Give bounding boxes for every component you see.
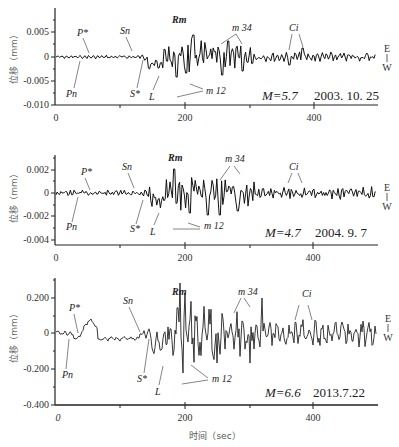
phase-label-rm: Rm (171, 286, 187, 297)
date-label: 2013.7.22 (313, 385, 365, 400)
phase-label-l: L (148, 91, 155, 102)
y-tick-label: 0 (44, 187, 49, 198)
component-e: E (385, 313, 391, 324)
seismogram-trace (56, 283, 376, 373)
phase-label-l: L (154, 386, 161, 397)
phase-label-sn: Sn (122, 161, 132, 172)
seismogram-figure: 0.005 0 -0.005 -0.010 位移（mm） 0 200 400 P… (0, 0, 399, 447)
phase-label-rm: Rm (171, 14, 187, 25)
phase-label-m12: m 12 (204, 220, 224, 231)
phase-label-l: L (149, 226, 156, 237)
panel-2004: 0.002 0 -0.002 -0.004 位移（mm） 0 200 400 P… (8, 152, 392, 263)
x-tick-label: 200 (178, 112, 193, 123)
phase-label-pn: Pn (65, 221, 77, 232)
magnitude-label: M=5.7 (261, 88, 298, 103)
x-tick-label: 0 (54, 252, 59, 263)
x-tick-label: 200 (178, 252, 193, 263)
phase-label-ci: Ci (302, 288, 312, 299)
seismogram-trace (56, 169, 375, 215)
seismogram-trace (56, 35, 375, 77)
magnitude-label: M=6.6 (264, 385, 301, 400)
y-tick-label: -0.200 (23, 363, 49, 374)
y-tick-label: 0.005 (27, 26, 50, 37)
phase-label-s: S* (130, 223, 140, 234)
y-tick-label: -0.005 (23, 75, 49, 86)
y-tick-label: -0.004 (23, 234, 49, 245)
phase-label-s: S* (137, 373, 147, 384)
component-w: W (383, 332, 393, 343)
date-label: 2003. 10. 25 (314, 88, 379, 103)
phase-label-pn: Pn (65, 88, 77, 99)
x-tick-label: 0 (54, 112, 59, 123)
y-tick-label: -0.400 (23, 399, 49, 410)
phase-label-m12: m 12 (212, 373, 232, 384)
component-e: E (384, 43, 390, 54)
y-axis-label: 位移（mm） (8, 30, 19, 84)
y-tick-label: 0 (44, 327, 49, 338)
x-tick-label: 0 (56, 412, 61, 423)
y-tick-label: -0.002 (23, 210, 49, 221)
panel-2013: 0.200 0 -0.200 -0.400 位移（mm） 0 200 400 时… (8, 278, 393, 441)
date-label: 2004. 9. 7 (315, 225, 368, 240)
y-tick-label: 0.002 (27, 164, 50, 175)
phase-label-p: P* (76, 27, 88, 38)
component-w: W (382, 201, 392, 212)
x-tick-label: 400 (307, 112, 322, 123)
component-w: W (382, 62, 392, 73)
phase-label-pn: Pn (61, 369, 73, 380)
y-tick-label: -0.010 (23, 99, 49, 110)
phase-label-m34: m 34 (232, 22, 252, 33)
phase-label-p: P* (68, 302, 80, 313)
component-e: E (384, 182, 390, 193)
panel-2003: 0.005 0 -0.005 -0.010 位移（mm） 0 200 400 P… (8, 8, 392, 123)
phase-label-sn: Sn (120, 25, 130, 36)
x-tick-label: 400 (306, 412, 321, 423)
phase-label-m12: m 12 (206, 85, 226, 96)
y-tick-label: 0.200 (27, 292, 50, 303)
magnitude-label: M=4.7 (264, 225, 301, 240)
y-axis-label: 位移（mm） (8, 169, 19, 223)
phase-label-p: P* (80, 166, 92, 177)
phase-label-m34: m 34 (225, 153, 245, 164)
y-axis-label: 位移（mm） (8, 309, 19, 363)
phase-label-rm: Rm (167, 152, 183, 163)
x-axis-label: 时间（sec） (189, 430, 240, 441)
phase-label-ci: Ci (289, 161, 299, 172)
x-tick-label: 400 (306, 252, 321, 263)
phase-label-m34: m 34 (238, 286, 258, 297)
phase-label-s: S* (130, 88, 140, 99)
phase-label-ci: Ci (289, 22, 299, 33)
x-tick-label: 200 (178, 412, 193, 423)
y-tick-label: 0 (44, 51, 49, 62)
phase-label-sn: Sn (123, 295, 133, 306)
